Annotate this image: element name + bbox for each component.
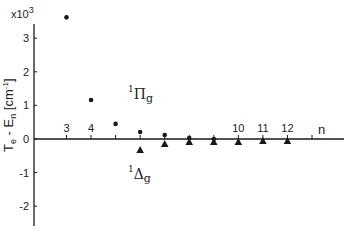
pi-g-point: [64, 15, 69, 20]
x-tick-label: 12: [281, 122, 293, 134]
axes: [34, 24, 344, 226]
y-tick-label: 2: [23, 66, 29, 78]
delta-g-point: [259, 137, 267, 144]
chart: -2-10123 34101112 x103 Te - En [cm-1] n …: [0, 0, 344, 231]
y-tick-label: 1: [23, 99, 29, 111]
x-axis-label: n: [318, 122, 325, 137]
x-tick-label: 10: [232, 122, 244, 134]
series-label-pi-g: 1Πg: [128, 84, 153, 105]
delta-g-point: [161, 140, 169, 147]
y-tick-label: -2: [19, 200, 29, 212]
y-tick-label: 0: [23, 133, 29, 145]
x-tick-label: 3: [63, 122, 69, 134]
y-tick-label: -1: [19, 167, 29, 179]
series-label-delta-g: 1Δg: [128, 164, 151, 185]
pi-g-point: [138, 130, 143, 135]
pi-g-point: [113, 122, 118, 127]
y-multiplier: x103: [11, 5, 34, 20]
x-tick-label: 11: [257, 122, 268, 134]
y-axis-label: Te - En [cm-1]: [1, 78, 18, 152]
pi-g-point: [162, 133, 167, 138]
x-tick-label: 4: [88, 122, 94, 134]
delta-g-point: [136, 146, 144, 153]
y-tick-label: 3: [23, 32, 29, 44]
delta-g-point: [284, 137, 292, 144]
pi-g-point: [89, 98, 94, 103]
